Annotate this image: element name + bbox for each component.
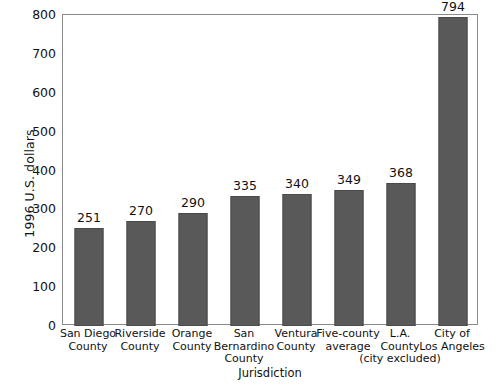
x-tick-label-line: San [214, 328, 274, 341]
x-tick-label-line: County [172, 341, 213, 354]
x-tick-label-line: Riverside [114, 328, 165, 341]
x-tick-label-line: County [114, 341, 165, 354]
bar-value-label: 290 [181, 195, 205, 210]
bar-slot: 335 [219, 15, 271, 326]
y-tick-label: 600 [4, 84, 56, 99]
y-tick-label: 400 [4, 162, 56, 177]
x-tick-label-line: County [60, 341, 116, 354]
y-axis-tick-labels: 0100200300400500600700800 [0, 0, 56, 390]
bar[interactable] [439, 17, 468, 326]
x-tick-label: OrangeCounty [172, 328, 213, 353]
y-tick-label: 500 [4, 123, 56, 138]
x-tick-label: RiversideCounty [114, 328, 165, 353]
y-tick-label: 0 [4, 318, 56, 333]
x-tick-label-line: Los Angeles [419, 341, 485, 354]
y-tick-label: 200 [4, 240, 56, 255]
bar[interactable] [75, 228, 104, 326]
plot-area: 251270290335340349368794 [62, 14, 478, 325]
bar-value-label: 794 [441, 0, 465, 14]
bar-slot: 290 [167, 15, 219, 326]
bar[interactable] [231, 196, 260, 326]
x-tick-label-line: County [275, 341, 318, 354]
x-tick-label-line: County [214, 353, 274, 366]
y-tick-label: 100 [4, 279, 56, 294]
bars-container: 251270290335340349368794 [63, 15, 479, 326]
bar-value-label: 270 [129, 203, 153, 218]
y-tick-label: 300 [4, 201, 56, 216]
bar[interactable] [387, 183, 416, 326]
x-tick-label: San DiegoCounty [60, 328, 116, 353]
x-tick-label: SanBernardinoCounty [214, 328, 274, 366]
x-tick-label-line: City of [419, 328, 485, 341]
x-axis-title: Jurisdiction [62, 366, 478, 380]
bar-slot: 368 [375, 15, 427, 326]
bar-slot: 794 [427, 15, 479, 326]
bar[interactable] [335, 190, 364, 326]
bar-value-label: 340 [285, 176, 309, 191]
bar-value-label: 251 [77, 210, 101, 225]
x-tick-label: VenturaCounty [275, 328, 318, 353]
bar-value-label: 349 [337, 172, 361, 187]
bar-slot: 349 [323, 15, 375, 326]
x-tick-label-line: San Diego [60, 328, 116, 341]
x-tick-label-line: Orange [172, 328, 213, 341]
y-tick-label: 800 [4, 7, 56, 22]
x-tick-label: City ofLos Angeles [419, 328, 485, 353]
bar[interactable] [283, 194, 312, 326]
bar-slot: 251 [63, 15, 115, 326]
bar[interactable] [179, 213, 208, 326]
bar-slot: 340 [271, 15, 323, 326]
bar-value-label: 368 [389, 165, 413, 180]
bar[interactable] [127, 221, 156, 326]
y-tick-label: 700 [4, 45, 56, 60]
x-tick-label-line: Ventura [275, 328, 318, 341]
x-tick-label-line: (city excluded) [359, 353, 441, 366]
bar-chart-figure: 1996 U.S. dollars 0100200300400500600700… [0, 0, 499, 390]
bar-slot: 270 [115, 15, 167, 326]
bar-value-label: 335 [233, 178, 257, 193]
